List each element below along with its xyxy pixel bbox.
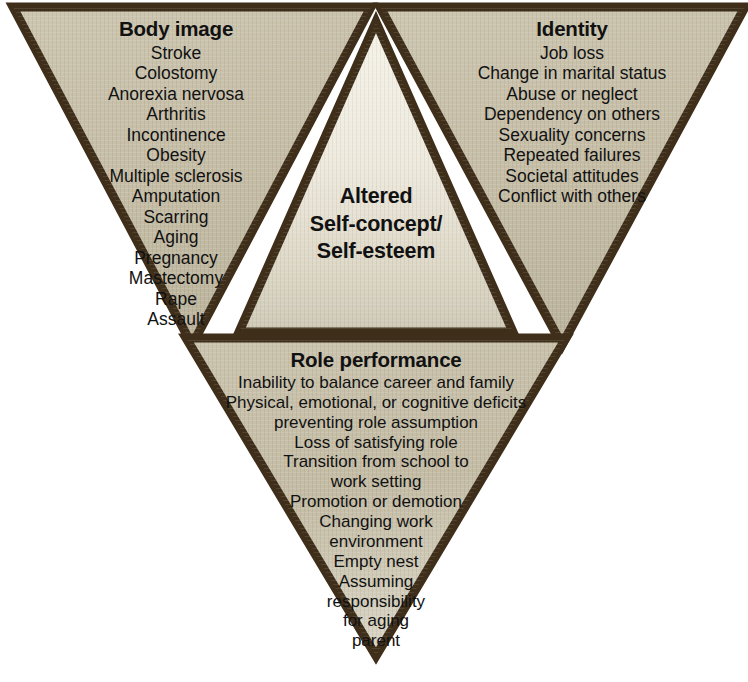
altered-self-concept-diagram: Body image Stroke Colostomy Anorexia ner… [0, 0, 748, 682]
diagram-shapes [0, 0, 748, 682]
